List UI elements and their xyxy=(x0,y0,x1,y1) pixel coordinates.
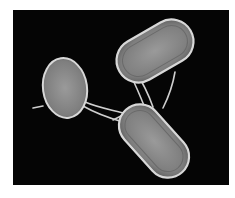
bacteria-illustration xyxy=(13,10,229,185)
micrograph-image xyxy=(13,10,229,185)
